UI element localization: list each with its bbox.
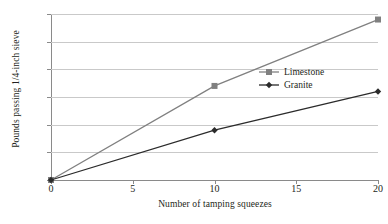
legend-key-square-icon [258,66,280,78]
x-axis-tick-label: 0 [36,184,66,194]
y-axis-title: Pounds passing 1/4-inch sieve [11,0,21,179]
x-axis-tick-mark [133,180,134,184]
legend-key-diamond-icon [258,79,280,91]
legend-label: Granite [280,79,313,92]
x-axis-tick-mark [378,180,379,184]
legend-item-limestone: Limestone [258,66,324,79]
x-axis-tick-label: 20 [363,184,388,194]
x-axis-title: Number of tamping squeezes [44,199,386,209]
x-axis-tick-label: 10 [200,184,230,194]
series-line-granite [51,91,378,180]
chart-legend: LimestoneGranite [258,66,324,91]
chart-figure: Pounds passing 1/4-inch sieve 0510152025… [0,0,388,224]
data-point-granite [375,88,381,94]
plot-area: 051015202530 05101520 [51,14,378,180]
x-axis-tick-mark [215,180,216,184]
legend-label: Limestone [280,66,324,79]
legend-item-granite: Granite [258,79,324,92]
x-axis-tick-mark [296,180,297,184]
series-line-limestone [51,20,378,180]
series-layer [51,14,378,180]
data-point-limestone [375,17,381,23]
x-axis-tick-label: 5 [118,184,148,194]
x-axis-tick-label: 15 [281,184,311,194]
data-point-limestone [212,83,218,89]
data-point-granite [211,127,217,133]
